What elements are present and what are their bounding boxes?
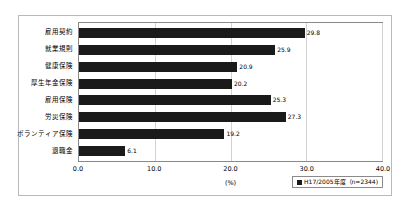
category-label: 労災保険 (19, 113, 76, 123)
bar-row: 29.8 (79, 28, 382, 38)
bar (79, 146, 125, 156)
bar-series: 29.825.920.920.225.327.319.26.1 (79, 23, 382, 161)
bar-value-label: 20.9 (239, 64, 252, 70)
bar-value-label: 27.3 (288, 114, 301, 120)
bar (79, 112, 286, 122)
chart-frame: 雇用契約就業規則健康保険厚生年金保険雇用保険労災保険ボランティア保険退職金 29… (18, 15, 392, 196)
bar-row: 27.3 (79, 112, 382, 122)
category-label: 就業規則 (19, 45, 76, 55)
x-tick-label: 10.0 (147, 166, 161, 173)
bar (79, 28, 305, 38)
bar (79, 62, 237, 72)
x-tick-label: 20.0 (223, 166, 237, 173)
bar-row: 25.3 (79, 95, 382, 105)
x-tick-label: 0.0 (73, 166, 83, 173)
category-label: ボランティア保険 (19, 130, 76, 140)
bar-row: 6.1 (79, 146, 382, 156)
bar-value-label: 25.3 (273, 97, 286, 103)
bar (79, 45, 275, 55)
gridline (382, 23, 383, 161)
category-label: 健康保険 (19, 62, 76, 72)
bar-row: 20.9 (79, 62, 382, 72)
bar-row: 20.2 (79, 79, 382, 89)
category-axis-labels: 雇用契約就業規則健康保険厚生年金保険雇用保険労災保険ボランティア保険退職金 (19, 22, 76, 162)
category-label: 雇用契約 (19, 28, 76, 38)
plot-area: 29.825.920.920.225.327.319.26.1 (78, 22, 383, 162)
bar-value-label: 6.1 (127, 148, 137, 154)
bar (79, 79, 232, 89)
x-axis-ticks: 0.010.020.030.040.0 (78, 166, 383, 176)
bar (79, 95, 271, 105)
bar-value-label: 25.9 (277, 47, 290, 53)
x-tick-label: 40.0 (376, 166, 390, 173)
legend-label: H17/2005年度（n=2344) (304, 179, 378, 185)
chart-legend: H17/2005年度（n=2344) (292, 176, 383, 188)
bar-value-label: 29.8 (307, 30, 320, 36)
category-label: 厚生年金保険 (19, 79, 76, 89)
bar-value-label: 20.2 (234, 81, 247, 87)
bar-value-label: 19.2 (226, 131, 239, 137)
category-label: 雇用保険 (19, 96, 76, 106)
category-label: 退職金 (19, 147, 76, 157)
x-tick-label: 30.0 (300, 166, 314, 173)
bar-row: 19.2 (79, 129, 382, 139)
bar (79, 129, 224, 139)
bar-row: 25.9 (79, 45, 382, 55)
legend-swatch-icon (297, 180, 302, 185)
